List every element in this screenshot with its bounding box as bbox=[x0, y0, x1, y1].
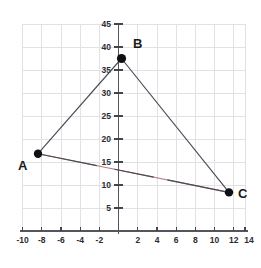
x-tick-label: 10 bbox=[210, 235, 220, 245]
y-tick-label: 35 bbox=[102, 65, 112, 75]
y-tick-label: 25 bbox=[102, 111, 112, 121]
y-tick-label: 10 bbox=[102, 180, 112, 190]
chart-screenshot: 5 10 15 20 25 30 35 40 45 -10 -8 -6 -4 -… bbox=[0, 0, 261, 268]
y-tick-label: 30 bbox=[102, 88, 112, 98]
x-tick-label: -4 bbox=[76, 235, 84, 245]
y-tick-label: 40 bbox=[102, 42, 112, 52]
y-tick-label: 15 bbox=[102, 157, 112, 167]
x-tick-label: 4 bbox=[155, 235, 160, 245]
x-tick-label: -8 bbox=[38, 235, 46, 245]
x-tick-label: 8 bbox=[193, 235, 198, 245]
vertex-c-dot bbox=[225, 188, 233, 196]
x-tick-label: -6 bbox=[57, 235, 65, 245]
y-tick-label: 45 bbox=[102, 19, 112, 29]
y-tick-label: 20 bbox=[102, 134, 112, 144]
x-tick-label: 12 bbox=[229, 235, 239, 245]
y-axis-tick-labels: 5 10 15 20 25 30 35 40 45 bbox=[102, 19, 112, 213]
vertex-a-dot bbox=[34, 150, 42, 158]
vertex-label-c: C bbox=[238, 186, 248, 201]
x-tick-label: 2 bbox=[135, 235, 140, 245]
vertex-b-dot bbox=[117, 54, 126, 63]
coordinate-plane-chart: 5 10 15 20 25 30 35 40 45 -10 -8 -6 -4 -… bbox=[0, 0, 261, 268]
vertex-label-b: B bbox=[133, 36, 142, 51]
x-tick-label: 6 bbox=[174, 235, 179, 245]
chart-background bbox=[0, 0, 261, 268]
y-tick-label: 5 bbox=[106, 203, 111, 213]
vertex-label-a: A bbox=[18, 158, 28, 173]
x-tick-label: -10 bbox=[16, 235, 29, 245]
x-tick-label: 14 bbox=[244, 235, 254, 245]
x-tick-label: -2 bbox=[96, 235, 104, 245]
